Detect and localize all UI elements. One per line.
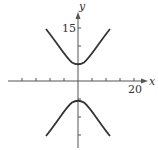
y-axis-label: y xyxy=(78,0,86,13)
y-axis-arrow-icon xyxy=(76,12,81,19)
x-axis-label: x xyxy=(149,75,156,88)
x-axis-arrow-icon xyxy=(141,79,148,84)
x-tick-label-20: 20 xyxy=(128,83,142,96)
y-tick-label-15: 15 xyxy=(62,22,76,35)
hyperbola-chart: y x 15 20 xyxy=(0,0,158,150)
